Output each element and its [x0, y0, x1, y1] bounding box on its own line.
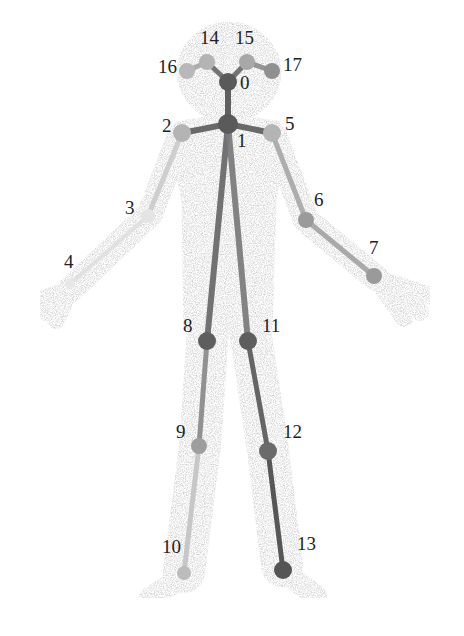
keypoint-label-12: 12 — [283, 422, 302, 441]
keypoint-11 — [239, 332, 257, 350]
keypoint-1 — [218, 114, 238, 134]
keypoint-14 — [199, 54, 215, 70]
pose-figure: 01234567891011121314151617 — [0, 0, 464, 636]
keypoint-label-10: 10 — [162, 537, 181, 556]
keypoint-label-7: 7 — [369, 238, 379, 257]
body-silhouette — [0, 0, 464, 636]
keypoint-0 — [219, 73, 237, 91]
keypoint-label-16: 16 — [158, 57, 177, 76]
keypoint-label-17: 17 — [283, 55, 302, 74]
keypoint-label-6: 6 — [314, 190, 324, 209]
keypoint-9 — [191, 438, 207, 454]
keypoint-label-13: 13 — [297, 534, 316, 553]
keypoint-label-11: 11 — [262, 316, 280, 335]
keypoint-label-15: 15 — [235, 28, 254, 47]
keypoint-4 — [65, 279, 75, 289]
keypoint-label-2: 2 — [162, 116, 172, 135]
keypoint-16 — [179, 63, 195, 79]
keypoint-label-0: 0 — [240, 73, 250, 92]
keypoint-15 — [239, 54, 255, 70]
limb-3-4 — [70, 216, 148, 284]
keypoint-label-8: 8 — [183, 316, 193, 335]
keypoint-label-4: 4 — [64, 252, 74, 271]
keypoint-label-3: 3 — [125, 198, 135, 217]
keypoint-8 — [198, 332, 216, 350]
right-arm-shape — [274, 136, 376, 278]
keypoint-label-14: 14 — [200, 28, 219, 47]
limb-6-7 — [306, 220, 374, 276]
keypoint-17 — [264, 63, 280, 79]
keypoint-label-1: 1 — [237, 131, 247, 150]
keypoint-12 — [259, 442, 277, 460]
keypoint-5 — [263, 124, 281, 142]
keypoint-2 — [173, 124, 191, 142]
keypoint-13 — [274, 561, 292, 579]
keypoint-6 — [298, 212, 314, 228]
keypoint-3 — [141, 209, 155, 223]
keypoint-label-9: 9 — [176, 422, 186, 441]
keypoint-10 — [177, 566, 191, 580]
keypoint-7 — [366, 268, 382, 284]
keypoint-label-5: 5 — [285, 114, 295, 133]
